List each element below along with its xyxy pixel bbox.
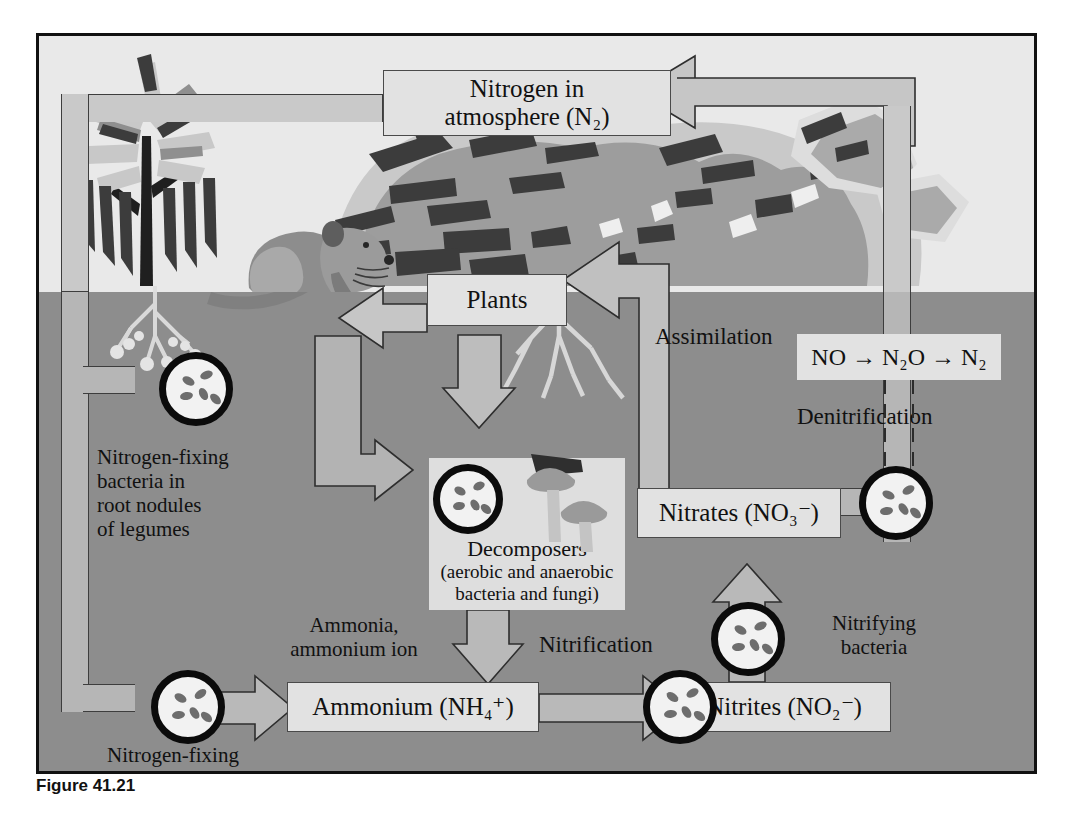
ammonia-line2: ammonium ion <box>259 638 449 662</box>
bacteria-icon-nitrifying[interactable] <box>711 602 785 676</box>
nitrification-label: Nitrification <box>539 632 653 657</box>
bacteria-icon-soil[interactable] <box>151 670 225 744</box>
nfix-soil-line2: soil bacteria <box>73 768 273 774</box>
label-nitrification: Nitrification <box>539 632 653 658</box>
decomposers-line2: (aerobic and anaerobic <box>429 561 625 582</box>
nfix-root-line4: of legumes <box>97 518 277 542</box>
label-nfix-root: Nitrogen-fixing bacteria in root nodules… <box>97 446 277 542</box>
node-atmosphere[interactable]: Nitrogen in atmosphere (N₂) <box>383 70 671 136</box>
tree-icon <box>81 54 217 286</box>
nitrogen-cycle-diagram: Nitrogen in atmosphere (N₂) Plants Decom… <box>36 33 1037 774</box>
band-left-vertical-soil <box>61 292 89 712</box>
ammonia-line1: Ammonia, <box>259 614 449 638</box>
denitrification-products-label: NO → N₂O → N₂ <box>811 344 986 371</box>
mushroom-icon <box>491 450 631 556</box>
ammonium-label: Ammonium (NH₄⁺) <box>312 693 514 721</box>
plants-label: Plants <box>466 286 527 314</box>
figure-caption: Figure 41.21 <box>36 776 436 796</box>
bacteria-icon-denitrifying[interactable] <box>859 466 933 540</box>
denitrification-dash-connector <box>879 380 919 470</box>
node-denitrification-products[interactable]: NO → N₂O → N₂ <box>797 334 1001 380</box>
bacteria-icon-decomposer[interactable] <box>433 464 503 534</box>
assimilation-label: Assimilation <box>655 324 773 349</box>
arrow-consumer-to-decomposers <box>315 336 413 500</box>
node-nitrates[interactable]: Nitrates (NO₃⁻) <box>637 488 841 538</box>
band-to-soil-bacteria <box>83 684 135 712</box>
nitrates-label: Nitrates (NO₃⁻) <box>659 499 819 527</box>
nitrites-label: Nitrites (NO₂⁻) <box>706 693 862 721</box>
label-nfix-soil: Nitrogen-fixing soil bacteria <box>73 744 273 774</box>
bacteria-icon-root-nodule[interactable] <box>159 352 233 426</box>
atmosphere-line2: atmosphere (N₂) <box>445 103 610 131</box>
label-nitrifying-bacteria: Nitrifying bacteria <box>799 612 949 660</box>
nfix-soil-line1: Nitrogen-fixing <box>73 744 273 768</box>
nfix-root-line1: Nitrogen-fixing <box>97 446 277 470</box>
rodent-icon <box>207 221 394 309</box>
bacteria-icon-nitrification[interactable] <box>643 670 717 744</box>
decomposers-line3: bacteria and fungi) <box>429 583 625 604</box>
nfix-root-line3: root nodules <box>97 494 277 518</box>
band-to-root-nodule-bacteria <box>83 366 135 394</box>
atmosphere-line1: Nitrogen in <box>445 75 610 103</box>
figure-page: Nitrogen in atmosphere (N₂) Plants Decom… <box>0 0 1067 813</box>
node-plants[interactable]: Plants <box>427 274 567 326</box>
band-right-vertical-sky <box>883 106 911 292</box>
label-assimilation: Assimilation <box>655 324 773 350</box>
band-atmosphere-left-top <box>61 94 383 122</box>
arrow-plants-to-decomposers <box>443 335 515 428</box>
arrow-decomposers-to-ammonium <box>453 610 523 684</box>
nfix-root-line2: bacteria in <box>97 470 277 494</box>
label-ammonia: Ammonia, ammonium ion <box>259 614 449 662</box>
node-ammonium[interactable]: Ammonium (NH₄⁺) <box>287 682 539 732</box>
band-left-vertical-sky <box>61 94 89 292</box>
nitrifying-line2: bacteria <box>799 636 949 660</box>
nitrifying-line1: Nitrifying <box>799 612 949 636</box>
caption-number: Figure 41.21 <box>36 776 135 795</box>
